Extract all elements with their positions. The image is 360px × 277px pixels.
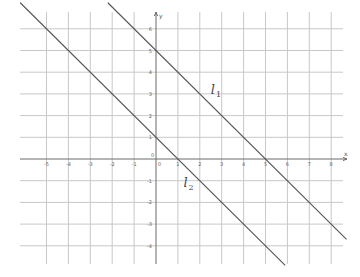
- y-tick-label: -3: [147, 221, 152, 227]
- y-tick-label: 2: [149, 113, 152, 119]
- y-tick-label: -2: [147, 199, 152, 205]
- x-tick-label: 2: [198, 161, 201, 167]
- x-tick-label: -5: [44, 161, 49, 167]
- label-subscript: 2: [189, 183, 194, 192]
- line-l2: [20, 3, 285, 266]
- line-l1: [108, 3, 347, 240]
- x-tick-label: 0: [158, 161, 161, 167]
- lines: [20, 3, 346, 266]
- label-main: l: [183, 175, 187, 190]
- x-tick-label: 4: [242, 161, 245, 167]
- x-tick-label: 5: [264, 161, 267, 167]
- x-tick-label: -1: [132, 161, 137, 167]
- y-tick-label: 4: [149, 69, 152, 75]
- x-tick-label: -2: [110, 161, 115, 167]
- x-tick-label: -4: [66, 161, 71, 167]
- label-l2: l2: [183, 175, 193, 192]
- x-tick-label: 7: [308, 161, 311, 167]
- y-tick-label: 5: [149, 48, 152, 54]
- y-tick-label: 1: [149, 134, 152, 140]
- x-tick-label: -3: [88, 161, 93, 167]
- x-tick-label: 1: [176, 161, 179, 167]
- origin-label: 0: [151, 152, 154, 158]
- y-tick-label: 6: [149, 26, 152, 32]
- x-tick-label: 3: [220, 161, 223, 167]
- label-l1: l1: [211, 82, 221, 99]
- coordinate-plane: xy 0-5-4-3-2-1123456780654321-1-2-3-4 l1…: [0, 0, 360, 277]
- y-axis-label: y: [159, 12, 163, 20]
- x-tick-label: 8: [330, 161, 333, 167]
- axes: xy: [20, 12, 348, 264]
- y-tick-label: -1: [147, 178, 152, 184]
- y-tick-label: 3: [149, 91, 152, 97]
- y-tick-label: -4: [147, 243, 152, 249]
- x-tick-label: 6: [286, 161, 289, 167]
- label-main: l: [211, 82, 215, 97]
- x-axis-label: x: [344, 150, 348, 157]
- label-subscript: 1: [216, 90, 221, 99]
